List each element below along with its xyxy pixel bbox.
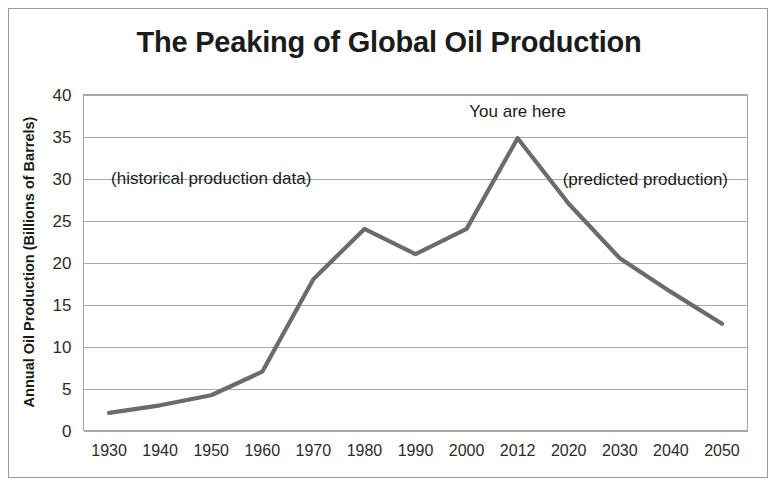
y-tick-label-15: 15 [53,296,72,315]
y-tick-label-35: 35 [53,128,72,147]
y-axis-title: Annual Oil Production (Billions of Barre… [21,116,37,407]
y-tick-label-5: 5 [62,380,71,399]
historical-label: (historical production data) [111,169,311,188]
x-tick-label-2020: 2020 [551,442,587,459]
y-tick-label-30: 30 [53,170,72,189]
y-tick-label-0: 0 [62,422,71,441]
x-tick-label-1930: 1930 [91,442,127,459]
x-tick-label-1970: 1970 [296,442,332,459]
x-tick-label-2030: 2030 [602,442,638,459]
y-tick-label-20: 20 [53,254,72,273]
y-tick-label-40: 40 [53,86,72,105]
x-tick-label-2012: 2012 [500,442,536,459]
gridlines [84,96,748,432]
x-tick-label-1960: 1960 [244,442,280,459]
predicted-label: (predicted production) [563,170,728,189]
x-tick-label-2050: 2050 [704,442,740,459]
x-tick-label-1990: 1990 [398,442,434,459]
x-tick-label-1940: 1940 [142,442,178,459]
line-chart-plot: Annual Oil Production (Billions of Barre… [0,0,778,489]
y-tick-label-10: 10 [53,338,72,357]
x-tick-label-1950: 1950 [193,442,229,459]
y-tick-label-25: 25 [53,212,72,231]
x-tick-label-2000: 2000 [449,442,485,459]
plot-area-border [84,95,748,431]
chart-annotations: (historical production data)You are here… [111,102,728,189]
chart-figure: The Peaking of Global Oil Production Ann… [0,0,778,489]
x-tick-label-1980: 1980 [347,442,383,459]
you-are-here-label: You are here [469,102,566,121]
x-tick-label-2040: 2040 [653,442,689,459]
x-axis-tick-labels: 1930194019501960197019801990200020122020… [91,442,740,459]
y-axis-tick-labels: 0510152025303540 [53,86,72,441]
